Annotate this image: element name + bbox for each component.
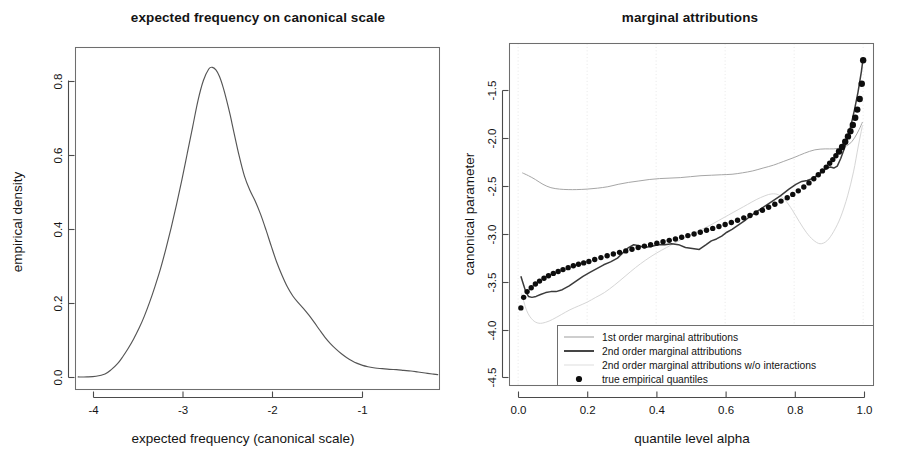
attribution-ytick-0: -1.5 — [486, 81, 498, 101]
density-ytick-2: 0.4 — [52, 221, 64, 238]
quantile-point — [847, 128, 853, 134]
quantile-point — [741, 215, 746, 220]
quantile-point — [586, 259, 591, 264]
density-xtick-1: -3 — [178, 404, 188, 416]
quantile-point — [576, 262, 581, 267]
density-ytick-4: 0.0 — [52, 370, 64, 386]
quantile-point — [529, 285, 534, 290]
attribution-xtick-5: 1.0 — [857, 404, 873, 416]
quantile-point — [691, 231, 696, 236]
quantile-point — [571, 263, 576, 268]
attribution-y-axis: -1.5 -2.0 -2.5 -3.0 -3.5 -4.0 -4.5 — [486, 81, 508, 388]
quantile-point — [710, 226, 715, 231]
quantile-point — [716, 224, 721, 229]
attribution-y-axis-title: canonical parameter — [462, 152, 477, 275]
attribution-xtick-0: 0.0 — [511, 404, 527, 416]
quantile-point — [729, 220, 734, 225]
attribution-x-axis-title: quantile level alpha — [634, 431, 750, 446]
quantile-point — [772, 202, 777, 207]
attribution-panel-svg: marginal attributions -1.5 -2.0 -2.5 -3.… — [460, 0, 898, 471]
quantile-point — [598, 255, 603, 260]
quantile-point — [648, 242, 653, 247]
quantile-point — [816, 172, 821, 177]
density-panel: expected frequency on canonical scale 0.… — [0, 0, 460, 471]
quantile-point — [679, 235, 684, 240]
legend-swatch-quantile-dot-icon — [576, 376, 582, 382]
quantile-point — [735, 218, 740, 223]
quantile-point — [753, 210, 758, 215]
true-quantile-points — [518, 57, 866, 311]
attribution-panel-title: marginal attributions — [622, 10, 758, 25]
quantile-point — [698, 230, 703, 235]
quantile-point — [760, 207, 765, 212]
attribution-ytick-2: -2.5 — [486, 177, 498, 197]
density-panel-svg: expected frequency on canonical scale 0.… — [0, 0, 460, 471]
quantile-point — [555, 269, 560, 274]
density-panel-title: expected frequency on canonical scale — [131, 10, 386, 25]
quantile-point — [685, 233, 690, 238]
quantile-point — [617, 250, 622, 255]
quantile-point — [565, 265, 570, 270]
quantile-point — [857, 96, 863, 102]
density-ytick-3: 0.2 — [52, 296, 64, 312]
quantile-point — [551, 271, 556, 276]
quantile-point — [854, 106, 860, 112]
attribution-xtick-3: 0.6 — [718, 404, 734, 416]
quantile-point — [785, 195, 790, 200]
quantile-point — [623, 248, 628, 253]
density-x-axis: -4 -3 -2 -1 — [88, 392, 367, 417]
quantile-point — [790, 192, 795, 197]
quantile-point — [604, 253, 609, 258]
attribution-legend: 1st order marginal attributions 2nd orde… — [558, 326, 874, 386]
legend-label-first-order: 1st order marginal attributions — [602, 332, 738, 343]
density-xtick-2: -2 — [267, 404, 277, 416]
quantile-point — [546, 273, 551, 278]
quantile-point — [560, 267, 565, 272]
density-x-axis-title: expected frequency (canonical scale) — [132, 431, 355, 446]
figure-root: expected frequency on canonical scale 0.… — [0, 0, 898, 471]
quantile-point — [524, 289, 529, 294]
quantile-point — [820, 168, 825, 173]
quantile-point — [635, 245, 640, 250]
no-interactions-curve — [522, 125, 863, 323]
quantile-point — [537, 278, 542, 283]
quantile-point — [581, 260, 586, 265]
density-ytick-1: 0.6 — [52, 148, 64, 164]
density-xtick-0: -4 — [88, 404, 99, 416]
density-plot-box — [76, 48, 440, 390]
quantile-point — [722, 222, 727, 227]
quantile-point — [811, 176, 816, 181]
quantile-point — [778, 198, 783, 203]
quantile-point — [860, 57, 866, 63]
quantile-point — [806, 180, 811, 185]
quantile-point — [654, 241, 659, 246]
quantile-point — [801, 184, 806, 189]
attribution-ytick-4: -3.5 — [486, 273, 498, 293]
legend-label-no-interactions: 2nd order marginal attributions w/o inte… — [602, 360, 816, 371]
attribution-ytick-3: -3.0 — [486, 225, 498, 245]
density-xtick-3: -1 — [357, 404, 367, 416]
quantile-point — [518, 305, 523, 310]
density-ytick-0: 0.8 — [52, 74, 64, 90]
density-y-axis: 0.8 0.6 0.4 0.2 0.0 — [52, 74, 74, 386]
attribution-xtick-2: 0.4 — [649, 404, 666, 416]
quantile-point — [611, 251, 616, 256]
attribution-x-axis: 0.0 0.2 0.4 0.6 0.8 1.0 — [511, 392, 873, 417]
quantile-point — [852, 115, 858, 121]
quantile-point — [766, 205, 771, 210]
attribution-ytick-5: -4.0 — [486, 321, 498, 341]
quantile-point — [704, 228, 709, 233]
attribution-ytick-6: -4.5 — [486, 368, 498, 388]
attribution-panel: marginal attributions -1.5 -2.0 -2.5 -3.… — [460, 0, 898, 471]
legend-label-second-order: 2nd order marginal attributions — [602, 346, 742, 357]
quantile-point — [747, 213, 752, 218]
quantile-point — [629, 247, 634, 252]
quantile-point — [850, 122, 856, 128]
empirical-density-curve — [78, 67, 438, 377]
quantile-point — [592, 257, 597, 262]
quantile-point — [796, 188, 801, 193]
attribution-ytick-1: -2.0 — [486, 129, 498, 149]
attribution-xtick-1: 0.2 — [580, 404, 596, 416]
quantile-point — [660, 239, 665, 244]
legend-label-true-quantiles: true empirical quantiles — [602, 374, 708, 385]
